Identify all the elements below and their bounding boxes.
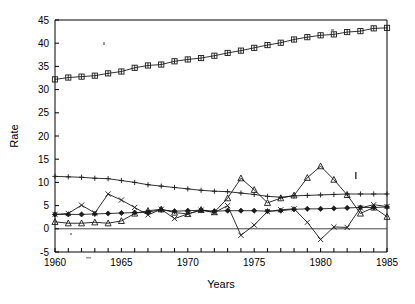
x-tick-label: 1985 — [376, 257, 399, 268]
series-diamonds-marker — [318, 206, 323, 211]
stray-ink-mark — [355, 172, 357, 179]
series-diamonds-marker — [345, 205, 350, 210]
y-axis-title: Rate — [8, 124, 20, 147]
series-diamonds-marker — [305, 206, 310, 211]
series-diamonds-marker — [119, 210, 124, 215]
y-tick-label: 30 — [38, 84, 50, 95]
scan-speck — [103, 42, 105, 45]
series-diamonds-marker — [106, 211, 111, 216]
y-tick-label: 40 — [38, 38, 50, 49]
y-tick-label: 10 — [38, 177, 50, 188]
y-tick-label: -5 — [40, 247, 49, 258]
y-tick-label: 15 — [38, 154, 50, 165]
y-tick-label: 35 — [38, 61, 50, 72]
scan-speck — [70, 233, 72, 235]
series-diamonds-marker — [79, 212, 84, 217]
series-x-line — [55, 194, 387, 239]
scan-speck — [86, 257, 91, 259]
x-tick-label: 1960 — [44, 257, 67, 268]
series-plus-line — [55, 176, 387, 197]
plot-frame — [55, 20, 387, 252]
y-tick-label: 5 — [43, 200, 49, 211]
y-tick-label: 45 — [38, 15, 50, 26]
x-tick-label: 1975 — [243, 257, 266, 268]
series-diamonds-marker — [278, 208, 283, 213]
line-chart-canvas: -505101520253035404519601965197019751980… — [0, 0, 415, 304]
series-diamonds-marker — [252, 208, 257, 213]
y-tick-label: 25 — [38, 107, 50, 118]
series-diamonds-line — [55, 207, 387, 214]
chart-figure: -505101520253035404519601965197019751980… — [0, 0, 415, 304]
y-tick-label: 0 — [43, 223, 49, 234]
series-diamonds-marker — [238, 208, 243, 213]
series-diamonds-marker — [331, 206, 336, 211]
series-squares-line — [55, 28, 387, 80]
x-tick-label: 1970 — [177, 257, 200, 268]
y-tick-label: 20 — [38, 131, 50, 142]
x-tick-label: 1980 — [309, 257, 332, 268]
x-axis-title: Years — [207, 278, 235, 290]
scan-speck — [331, 29, 334, 31]
x-tick-label: 1965 — [110, 257, 133, 268]
